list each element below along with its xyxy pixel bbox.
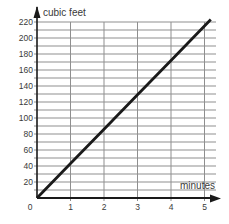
x-tick-label: 0 <box>28 202 33 212</box>
x-tick-label: 4 <box>169 202 174 212</box>
x-tick-label: 3 <box>135 202 140 212</box>
x-tick-label: 2 <box>102 202 107 212</box>
y-tick-label: 200 <box>19 33 33 43</box>
y-tick-label: 140 <box>19 81 33 91</box>
y-tick-label: 160 <box>19 65 33 75</box>
x-tick-label: 1 <box>68 202 73 212</box>
y-tick-label: 220 <box>19 17 33 27</box>
y-tick-label: 20 <box>24 177 34 187</box>
y-tick-label: 60 <box>24 145 34 155</box>
y-tick-label: 80 <box>24 129 34 139</box>
x-tick-label: 5 <box>202 202 207 212</box>
chart: 20406080100120140160180200220012345 cubi… <box>0 0 229 224</box>
y-tick-label: 40 <box>24 161 34 171</box>
x-axis-title: minutes <box>180 180 215 191</box>
y-tick-label: 180 <box>19 49 33 59</box>
y-tick-label: 120 <box>19 97 33 107</box>
y-tick-label: 100 <box>19 113 33 123</box>
y-axis-title: cubic feet <box>43 7 86 18</box>
